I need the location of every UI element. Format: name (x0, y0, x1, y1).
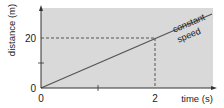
y-axis-label: distance (m) (6, 4, 17, 56)
x-axis-arrow-icon (211, 86, 217, 90)
x-tick-label-0: 0 (38, 93, 44, 104)
y-tick-label-20: 20 (25, 33, 37, 44)
x-axis-label: time (s) (181, 93, 213, 104)
distance-time-chart: 20 0 0 2 time (s) distance (m) constant … (0, 0, 224, 108)
y-tick-label-0: 0 (30, 83, 36, 94)
x-tick-label-2: 2 (152, 93, 158, 104)
